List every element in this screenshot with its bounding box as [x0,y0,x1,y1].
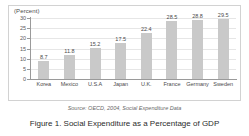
figure-caption: Figure 1. Social Expenditure as a Percen… [0,119,249,128]
bar-slot: 29.5 [210,18,236,79]
source-note: Source: OECD, 2004, Social Expenditure D… [0,105,249,111]
y-tick-mark [27,69,30,70]
y-axis-unit-label: (Percent) [14,8,40,14]
bar-value-label: 29.5 [210,12,236,18]
bar-slot: 11.8 [57,18,83,79]
y-tick-label-wrap: 25 [9,25,26,31]
bar[interactable] [90,48,101,79]
x-category-label: U.K. [134,81,160,88]
plot-area: 8.711.815.217.522.428.528.829.5 [31,18,236,79]
bar-slot: 22.4 [134,18,160,79]
bar[interactable] [141,33,152,79]
bar-value-label: 15.2 [82,41,108,47]
bar-value-label: 28.8 [185,13,211,19]
y-tick-label: 15 [20,46,26,52]
y-tick-mark [27,38,30,39]
bar[interactable] [218,19,229,79]
y-tick-label: 25 [20,25,26,31]
bar-value-label: 28.5 [159,14,185,20]
bar-value-label: 8.7 [31,54,57,60]
x-category-label: Korea [31,81,57,88]
bar-value-label: 17.5 [108,36,134,42]
x-category-label: Japan [108,81,134,88]
y-tick-label: 10 [20,56,26,62]
y-tick-mark [27,59,30,60]
bar-slot: 15.2 [82,18,108,79]
bar[interactable] [64,55,75,79]
bar-slot: 17.5 [108,18,134,79]
y-tick-label: 0 [23,76,26,82]
y-tick-label-wrap: 30 [9,15,26,21]
x-category-label: U.S.A [82,81,108,88]
y-tick-label-wrap: 15 [9,46,26,52]
y-tick-mark [27,28,30,29]
y-tick-label-wrap: 0 [9,76,26,82]
bar-value-label: 22.4 [134,26,160,32]
bar[interactable] [115,43,126,79]
x-category-label: Sweden [210,81,236,88]
y-tick-label: 30 [20,15,26,21]
y-tick-mark [27,18,30,19]
y-tick-mark [27,79,30,80]
bar[interactable] [38,61,49,79]
bar-value-label: 11.8 [57,48,83,54]
x-category-label: France [159,81,185,88]
y-tick-label: 5 [23,66,26,72]
x-category-label: Mexico [57,81,83,88]
y-tick-mark [27,49,30,50]
bar[interactable] [166,21,177,79]
y-tick-label: 20 [20,35,26,41]
bar[interactable] [192,20,203,79]
bar-slot: 28.8 [185,18,211,79]
bar-slot: 28.5 [159,18,185,79]
figure-container: (Percent) 051015202530 8.711.815.217.522… [0,0,249,136]
x-category-label: Germany [185,81,211,88]
y-tick-label-wrap: 10 [9,56,26,62]
x-axis-line [30,79,237,80]
y-tick-label-wrap: 20 [9,35,26,41]
bar-slot: 8.7 [31,18,57,79]
y-tick-label-wrap: 5 [9,66,26,72]
chart-frame: (Percent) 051015202530 8.711.815.217.522… [8,5,241,101]
